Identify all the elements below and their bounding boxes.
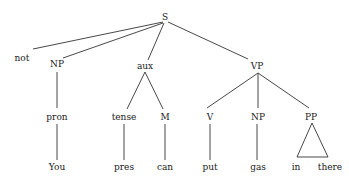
node-np-subject: NP <box>50 60 64 69</box>
edge-vp-pp <box>258 73 309 108</box>
edge-s-aux <box>148 23 164 60</box>
edge-vp-v <box>207 73 258 108</box>
leaf-there: there <box>318 163 342 172</box>
leaf-put: put <box>202 163 217 172</box>
node-s: S <box>162 13 168 22</box>
node-m: M <box>160 113 169 122</box>
node-np-object: NP <box>251 113 265 122</box>
node-pp: PP <box>305 113 317 122</box>
leaf-can: can <box>157 163 173 172</box>
node-aux: aux <box>137 62 153 71</box>
edge-s-not <box>33 22 163 49</box>
pp-triangle <box>297 123 328 157</box>
leaf-pres: pres <box>114 163 134 172</box>
node-tense: tense <box>112 113 137 122</box>
leaf-in: in <box>292 163 301 172</box>
node-vp: VP <box>251 62 264 71</box>
edge-aux-tense <box>127 72 145 109</box>
edge-aux-m <box>145 72 163 109</box>
leaf-you: You <box>49 163 65 172</box>
node-pron: pron <box>46 113 67 122</box>
syntax-tree-diagram: S not NP aux VP pron tense M V NP PP You… <box>0 0 349 184</box>
leaf-gas: gas <box>250 163 266 172</box>
tree-edges <box>0 0 349 184</box>
node-not: not <box>15 54 30 63</box>
edge-s-np <box>63 23 163 58</box>
node-v: V <box>207 113 214 122</box>
edge-s-vp <box>168 22 248 59</box>
